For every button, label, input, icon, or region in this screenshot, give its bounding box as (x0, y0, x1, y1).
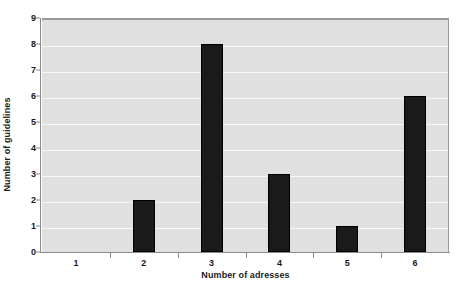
x-axis-tick-label: 4 (277, 258, 282, 269)
x-axis-tick-label: 1 (73, 258, 78, 269)
gridline (42, 72, 448, 73)
plot-area (42, 18, 449, 252)
y-axis-tick-mark (36, 96, 40, 97)
bar (133, 200, 155, 252)
y-axis-tick-label: 3 (20, 170, 36, 179)
y-axis-tick-label: 0 (20, 248, 36, 257)
y-axis-tick-mark (36, 18, 40, 19)
y-axis-tick-mark (36, 174, 40, 175)
gridline (42, 46, 448, 47)
x-axis-tick-mark (110, 253, 111, 258)
y-axis-tick-label: 4 (20, 144, 36, 153)
y-axis-tick-mark (36, 226, 40, 227)
y-axis-tick-mark (36, 200, 40, 201)
y-axis-tick-label: 9 (20, 14, 36, 23)
x-axis-tick-label: 2 (141, 258, 146, 269)
y-axis-tick-label: 2 (20, 196, 36, 205)
gridline (42, 150, 448, 151)
x-axis-tick-mark (246, 253, 247, 258)
gridline (42, 202, 448, 203)
x-axis-label: Number of adresses (42, 270, 449, 280)
gridline (42, 176, 448, 177)
y-axis-tick-mark (36, 122, 40, 123)
x-axis-tick-mark (313, 253, 314, 258)
y-axis-tick-label: 1 (20, 222, 36, 231)
x-axis-tick-label: 5 (345, 258, 350, 269)
x-axis-tick-mark (381, 253, 382, 258)
bar (201, 44, 223, 252)
y-axis-line (40, 18, 41, 253)
y-axis-tick-mark (36, 252, 40, 253)
bar (336, 226, 358, 252)
bar-chart: Number of guidelines 0123456789 Number o… (0, 0, 462, 289)
x-axis-tick-label: 3 (209, 258, 214, 269)
gridline (42, 98, 448, 99)
x-axis-tick-label: 6 (413, 258, 418, 269)
y-axis-tick-label: 5 (20, 118, 36, 127)
y-axis-tick-label: 7 (20, 66, 36, 75)
y-axis-tick-mark (36, 148, 40, 149)
x-axis-tick-mark (178, 253, 179, 258)
bar (404, 96, 426, 252)
bar (268, 174, 290, 252)
gridline (42, 228, 448, 229)
y-axis-tick-label: 6 (20, 92, 36, 101)
y-axis-tick-mark (36, 44, 40, 45)
gridline (42, 124, 448, 125)
y-axis-tick-label: 8 (20, 40, 36, 49)
y-axis-tick-mark (36, 70, 40, 71)
y-axis-label: Number of guidelines (0, 0, 14, 289)
y-axis-tick-labels: 0123456789 (20, 18, 36, 252)
